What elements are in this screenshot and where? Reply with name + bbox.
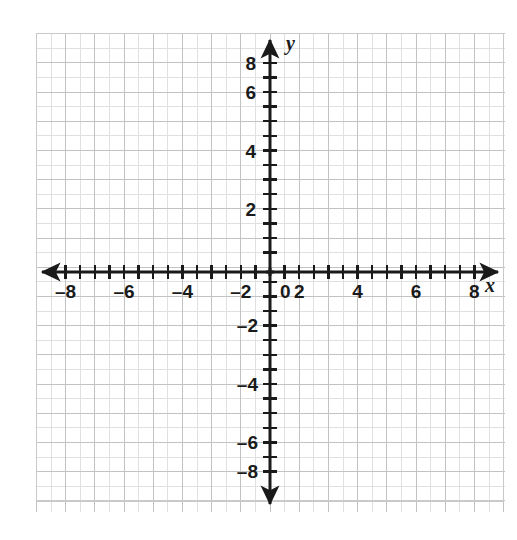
y-tick-label-6: 6 — [245, 82, 256, 103]
x-axis-label: x — [484, 274, 495, 296]
origin-label: 0 — [280, 281, 291, 302]
y-tick-label-8: 8 — [245, 53, 256, 74]
coordinate-plane-svg: –8 –6 –4 –2 2 4 6 8 8 6 4 2 –2 –4 –6 –8 … — [0, 0, 517, 540]
coordinate-plane-figure: –8 –6 –4 –2 2 4 6 8 8 6 4 2 –2 –4 –6 –8 … — [0, 0, 517, 540]
y-tick-label--8: –8 — [237, 461, 258, 482]
y-tick-label--6: –6 — [237, 432, 258, 453]
x-tick-label--2: –2 — [230, 281, 251, 302]
x-tick-label--8: –8 — [55, 281, 76, 302]
y-tick-label--4: –4 — [237, 374, 259, 395]
y-tick-label-2: 2 — [245, 199, 256, 220]
x-tick-label-2: 2 — [294, 281, 305, 302]
x-tick-label-4: 4 — [352, 281, 363, 302]
x-tick-label--4: –4 — [172, 281, 194, 302]
x-tick-label--6: –6 — [113, 281, 134, 302]
y-tick-label--2: –2 — [237, 315, 258, 336]
x-tick-label-6: 6 — [411, 281, 422, 302]
y-tick-label-4: 4 — [245, 141, 256, 162]
y-axis-label: y — [284, 32, 295, 55]
x-tick-label-8: 8 — [469, 281, 480, 302]
